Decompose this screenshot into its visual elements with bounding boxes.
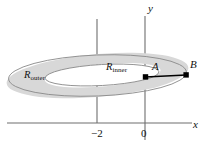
label-r-inner: Rinner	[106, 62, 127, 73]
point-b-marker	[183, 72, 188, 77]
label-r-outer-sub: outer	[30, 74, 45, 81]
label-r-outer: Router	[24, 70, 45, 81]
point-a-marker	[143, 74, 148, 79]
label-axis-y: y	[148, 3, 153, 14]
tick-label-x-zero: 0	[141, 128, 147, 139]
label-axis-x: x	[193, 119, 198, 130]
tick-label-x-minus-2: −2	[91, 128, 103, 139]
label-point-b: B	[190, 59, 197, 70]
label-point-a: A	[152, 61, 159, 72]
math-figure: Router Rinner A B y x −2 0	[0, 0, 203, 153]
label-r-inner-sub: inner	[112, 66, 127, 73]
